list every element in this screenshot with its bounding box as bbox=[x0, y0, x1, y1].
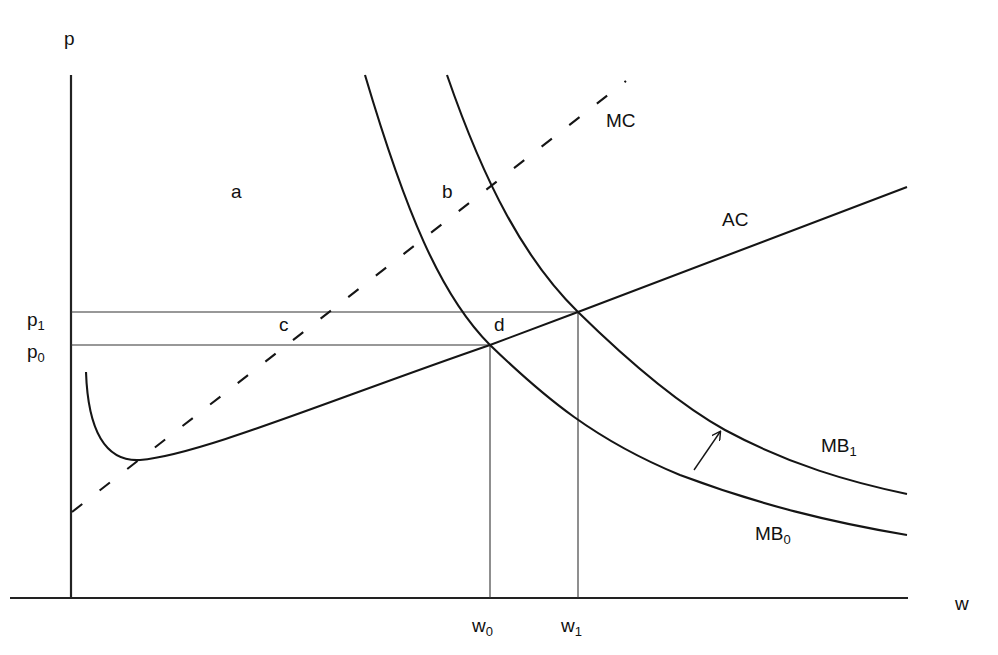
tick-w0: w0 bbox=[471, 615, 493, 639]
cost-benefit-diagram: p w p1 p0 w0 w1 MC AC MB0 MB1 a b c d bbox=[0, 0, 998, 655]
shift-arrow-icon bbox=[694, 432, 720, 470]
mb0-label: MB0 bbox=[755, 523, 791, 547]
tick-p1: p1 bbox=[27, 309, 45, 333]
region-label-b: b bbox=[442, 181, 453, 202]
mb1-curve bbox=[447, 75, 907, 494]
x-axis-label: w bbox=[954, 593, 969, 614]
tick-p0-base: p bbox=[27, 341, 38, 362]
tick-p1-base: p bbox=[27, 309, 38, 330]
mb1-label: MB1 bbox=[821, 435, 857, 459]
tick-p0: p0 bbox=[27, 341, 45, 365]
mb0-label-base: MB bbox=[755, 523, 784, 544]
mb0-label-sub: 0 bbox=[784, 532, 791, 547]
tick-w1-base: w bbox=[560, 615, 575, 636]
mc-curve bbox=[72, 81, 626, 512]
region-label-a: a bbox=[231, 181, 242, 202]
y-axis-label: p bbox=[64, 28, 75, 49]
region-label-d: d bbox=[494, 314, 505, 335]
tick-p0-sub: 0 bbox=[38, 350, 45, 365]
tick-w1: w1 bbox=[560, 615, 582, 639]
mc-label: MC bbox=[606, 110, 636, 131]
tick-w0-base: w bbox=[471, 615, 486, 636]
mb0-curve bbox=[365, 75, 907, 535]
mb1-label-sub: 1 bbox=[850, 444, 857, 459]
tick-w1-sub: 1 bbox=[575, 624, 582, 639]
tick-p1-sub: 1 bbox=[38, 318, 45, 333]
region-label-c: c bbox=[279, 314, 289, 335]
ac-label: AC bbox=[722, 209, 748, 230]
mb1-label-base: MB bbox=[821, 435, 850, 456]
tick-w0-sub: 0 bbox=[486, 624, 493, 639]
